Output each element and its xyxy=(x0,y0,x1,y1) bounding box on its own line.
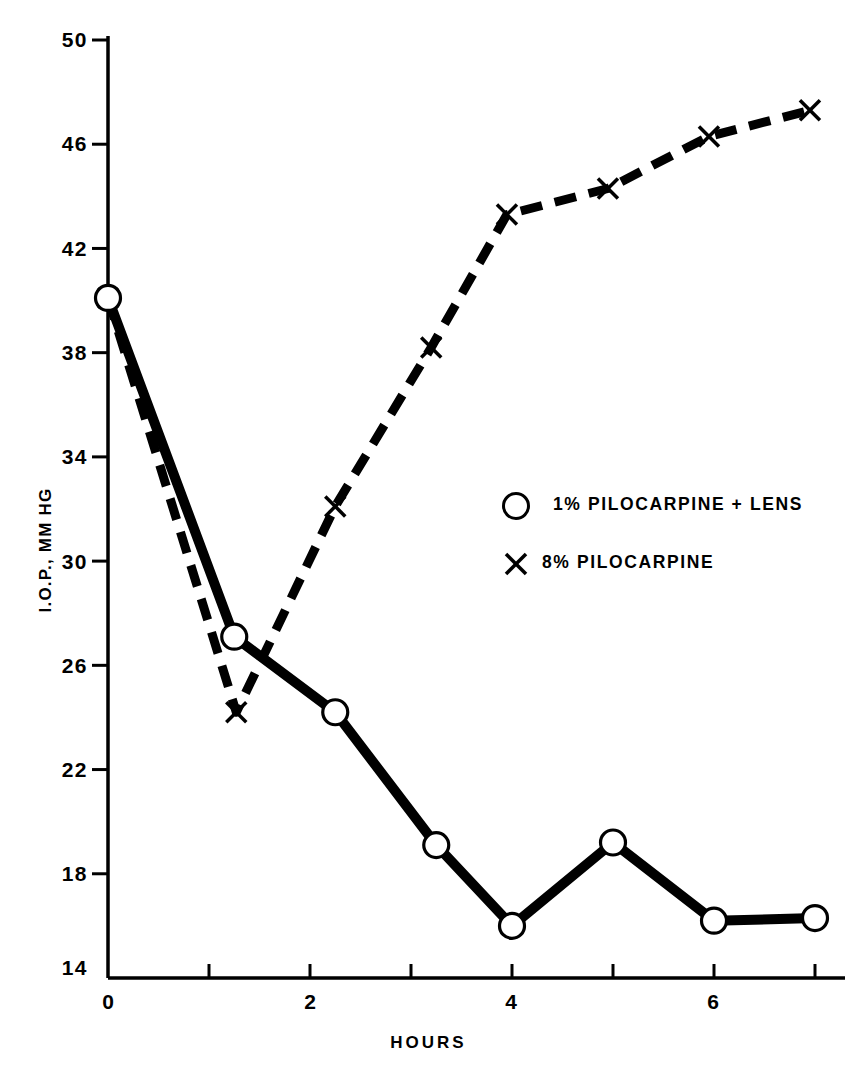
y-tick-label-46: 46 xyxy=(28,132,88,156)
legend-circle-marker-icon xyxy=(504,494,529,519)
x-axis-ticks xyxy=(209,964,815,978)
legend-label-8-percent-pilocarpine: 8% PILOCARPINE xyxy=(542,552,714,573)
y-tick-label-22: 22 xyxy=(28,758,88,782)
y-tick-label-38: 38 xyxy=(28,341,88,365)
x-tick-label-6: 6 xyxy=(693,990,733,1014)
y-tick-label-14: 14 xyxy=(28,956,88,980)
x-tick-label-0: 0 xyxy=(88,990,128,1014)
y-tick-label-42: 42 xyxy=(28,237,88,261)
y-axis-title: I.O.P., MM HG xyxy=(36,400,56,700)
x-tick-label-4: 4 xyxy=(491,990,531,1014)
series-8-percent-pilocarpine xyxy=(98,100,820,722)
iop-line-chart xyxy=(0,0,857,1089)
y-tick-label-18: 18 xyxy=(28,862,88,886)
chart-figure: 50 46 42 38 34 30 26 22 18 14 0 2 4 6 I.… xyxy=(0,0,857,1089)
legend-x-marker-icon xyxy=(506,554,526,574)
x-axis-title: HOURS xyxy=(0,1033,857,1053)
y-axis-ticks xyxy=(92,40,108,874)
y-tick-label-50: 50 xyxy=(28,28,88,52)
legend-label-1-percent-pilocarpine-lens: 1% PILOCARPINE + LENS xyxy=(553,494,803,515)
x-tick-label-2: 2 xyxy=(290,990,330,1014)
